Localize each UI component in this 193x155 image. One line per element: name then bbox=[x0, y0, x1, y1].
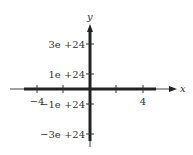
y-tick-label: −3e +24 bbox=[40, 129, 85, 140]
x-tick-label: 4 bbox=[140, 96, 146, 107]
y-axis-label: y bbox=[86, 11, 93, 22]
y-tick-label: 1e +24 bbox=[48, 69, 85, 80]
y-axis-arrow-icon bbox=[87, 24, 93, 32]
x-axis-arrow-icon bbox=[169, 86, 177, 92]
y-tick-label: −1e +24 bbox=[40, 99, 85, 110]
coordinate-plane: y x −4 4 3e +24 1e +24 −1e +24 −3e +24 bbox=[0, 0, 193, 155]
y-tick-label: 3e +24 bbox=[48, 39, 85, 50]
x-axis-label: x bbox=[180, 83, 186, 94]
